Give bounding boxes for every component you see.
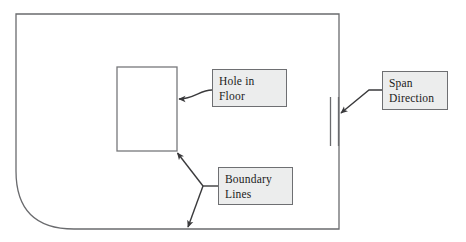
callout-span-direction: Span Direction	[382, 71, 448, 110]
span-direction-tick-marks	[331, 97, 339, 146]
callout-hole-in-floor-line1: Hole in	[219, 74, 286, 89]
callout-hole-in-floor: Hole in Floor	[212, 69, 287, 107]
hole-in-floor-rectangle	[117, 67, 177, 151]
leader-hole-in-floor	[179, 90, 212, 99]
diagram-canvas: Hole in Floor Boundary Lines Span Direct…	[0, 0, 466, 242]
callout-boundary-lines-line1: Boundary	[225, 172, 292, 187]
floor-plan-graphics	[0, 0, 466, 242]
callout-hole-in-floor-line2: Floor	[219, 89, 286, 104]
callout-span-direction-line2: Direction	[389, 91, 447, 106]
leader-boundary-lines	[178, 153, 219, 227]
callout-span-direction-line1: Span	[389, 76, 447, 91]
leader-span-direction	[341, 90, 382, 113]
callout-boundary-lines: Boundary Lines	[218, 167, 293, 205]
callout-boundary-lines-line2: Lines	[225, 187, 292, 202]
